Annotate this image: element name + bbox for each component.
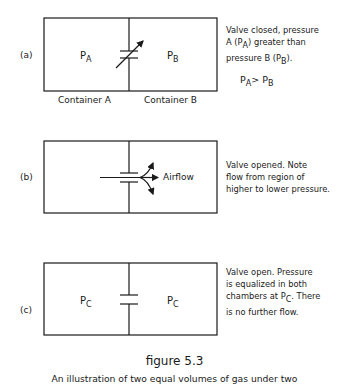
container-a-label: Container A xyxy=(58,96,111,105)
pressure-label-c-right: PC xyxy=(167,295,179,309)
panel-a-description: Valve closed, pressure A (PA) greater th… xyxy=(226,24,348,90)
panel-a-containers xyxy=(44,18,217,91)
panel-c-description: Valve open. Pressure is equalized in bot… xyxy=(226,266,348,318)
figure-title: figure 5.3 xyxy=(0,354,349,368)
pressure-label-a-right: PB xyxy=(167,50,179,64)
panel-label-b: (b) xyxy=(20,172,33,182)
panel-label-c: (c) xyxy=(20,305,32,315)
panel-b-description: Valve opened. Note flow from region of h… xyxy=(226,159,348,195)
panel-label-a: (a) xyxy=(20,50,33,60)
pressure-label-c-left: PC xyxy=(80,295,92,309)
figure-caption: An illustration of two equal volumes of … xyxy=(0,373,349,384)
airflow-label: Airflow xyxy=(163,173,194,182)
panel-c-containers xyxy=(44,263,217,335)
pressure-label-a-left: PA xyxy=(80,50,92,64)
inequality-label: PA> PB xyxy=(226,74,348,90)
container-b-label: Container B xyxy=(144,96,197,105)
